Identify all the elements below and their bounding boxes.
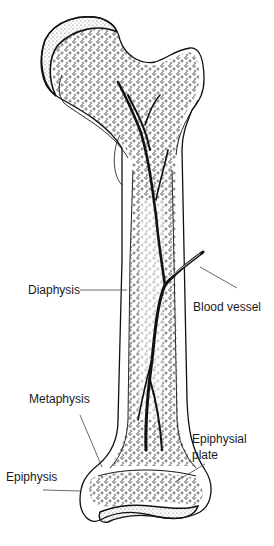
label-blood-vessel: Blood vessel <box>193 300 261 314</box>
label-metaphysis: Metaphysis <box>29 392 90 406</box>
bone-diagram: Diaphysis Blood vessel Metaphysis Epiphy… <box>0 0 274 546</box>
label-epiphysial-plate-line1: Epiphysial <box>192 432 247 446</box>
label-diaphysis: Diaphysis <box>28 283 80 297</box>
label-epiphysial-plate-line2: plate <box>192 448 218 462</box>
femur-illustration <box>0 0 274 546</box>
label-epiphysis: Epiphysis <box>6 470 57 484</box>
articular-cartilage-distal <box>99 505 198 522</box>
